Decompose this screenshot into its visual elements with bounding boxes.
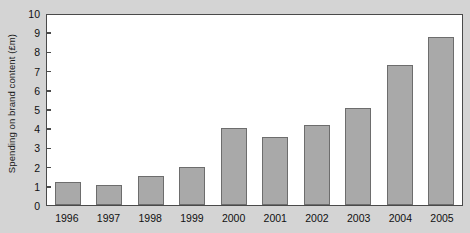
- x-tick-label: 2002: [296, 209, 338, 227]
- x-tick-label: 2000: [213, 209, 255, 227]
- bar-chart-figure: Spending on brand content (£m) 012345678…: [0, 0, 470, 233]
- bar: [262, 137, 288, 205]
- bar-slot: [296, 15, 338, 205]
- y-tick-mark: [46, 128, 51, 130]
- x-axis-labels: 1996199719981999200020012002200320042005: [46, 209, 463, 227]
- y-tick-mark: [46, 167, 51, 169]
- bar-slot: [421, 15, 463, 205]
- y-tick-label: 9: [12, 27, 40, 39]
- bar-slot: [47, 15, 89, 205]
- y-tick-label: 5: [12, 104, 40, 116]
- x-tick-label: 1999: [171, 209, 213, 227]
- y-tick-label: 6: [12, 85, 40, 97]
- y-tick-label: 0: [12, 200, 40, 212]
- y-tick-label: 4: [12, 123, 40, 135]
- plot-area: [46, 14, 463, 206]
- x-tick-label: 2004: [380, 209, 422, 227]
- y-tick-mark: [46, 186, 51, 188]
- bar: [345, 108, 371, 205]
- y-tick-label: 10: [12, 8, 40, 20]
- y-tick-mark: [46, 90, 51, 92]
- x-tick-label: 2003: [338, 209, 380, 227]
- y-tick-mark: [46, 109, 51, 111]
- x-tick-label: 1997: [88, 209, 130, 227]
- bar-slot: [379, 15, 421, 205]
- bar-slot: [213, 15, 255, 205]
- bar: [138, 176, 164, 205]
- y-tick-mark: [46, 71, 51, 73]
- x-tick-label: 1996: [46, 209, 88, 227]
- bars-layer: [47, 15, 462, 205]
- bar: [304, 125, 330, 205]
- x-tick-label: 2005: [421, 209, 463, 227]
- y-tick-mark: [46, 52, 51, 54]
- y-tick-label: 3: [12, 142, 40, 154]
- y-tick-mark: [46, 32, 51, 34]
- y-axis-ticks: 012345678910: [0, 0, 46, 233]
- bar: [55, 182, 81, 205]
- bar: [179, 167, 205, 205]
- y-tick-label: 2: [12, 162, 40, 174]
- y-tick-label: 1: [12, 181, 40, 193]
- bar-slot: [130, 15, 172, 205]
- bar-slot: [89, 15, 131, 205]
- bar: [387, 65, 413, 205]
- bar: [221, 128, 247, 205]
- bar: [428, 37, 454, 205]
- x-tick-label: 2001: [254, 209, 296, 227]
- y-tick-label: 7: [12, 66, 40, 78]
- bar-slot: [338, 15, 380, 205]
- bar: [96, 185, 122, 205]
- bar-slot: [255, 15, 297, 205]
- y-tick-label: 8: [12, 46, 40, 58]
- x-tick-label: 1998: [129, 209, 171, 227]
- y-tick-mark: [46, 148, 51, 150]
- bar-slot: [172, 15, 214, 205]
